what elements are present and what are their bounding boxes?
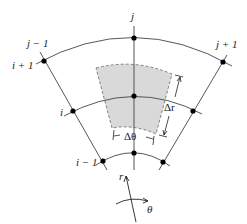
delta-theta-label: Δθ (124, 130, 136, 142)
node-i+1-j+1 (220, 59, 225, 64)
delta-r-label: Δr (164, 101, 175, 113)
label-r-axis: r (119, 170, 124, 182)
polar-axes-indicator (116, 176, 148, 222)
label-i: i (60, 106, 63, 118)
node-i+1-j-1 (41, 58, 46, 63)
label-j-plus-1: j + 1 (214, 38, 237, 50)
label-i-plus-1: i + 1 (12, 59, 33, 71)
label-theta-axis: θ (147, 203, 153, 215)
node-i-1-j+1 (160, 159, 165, 164)
polar-grid-diagram: Δr Δθ j j − 1 i + 1 j + 1 i i − 1 r θ (0, 0, 247, 224)
node-i-j (131, 93, 136, 98)
node-i-j-1 (70, 108, 75, 113)
label-i-minus-1: i − 1 (76, 156, 97, 168)
node-i-j+1 (190, 108, 195, 113)
node-i-1-j-1 (100, 158, 105, 163)
label-j-minus-1: j − 1 (25, 37, 48, 49)
node-i-1-j (131, 150, 136, 155)
label-j: j (129, 10, 134, 22)
node-i+1-j (131, 35, 136, 40)
